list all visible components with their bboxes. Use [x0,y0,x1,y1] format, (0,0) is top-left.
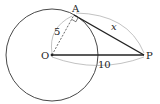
tangent-diagram: A O P 5 x 10 [0,0,160,104]
label-P: P [146,50,153,61]
label-A: A [71,3,80,14]
label-OA-length: 5 [54,26,60,37]
label-O: O [41,50,49,61]
label-OP-length: 10 [98,59,111,70]
point-O [51,54,54,57]
tangent-AP [74,15,144,55]
label-AP-length: x [111,21,117,32]
brace-AP [76,13,144,53]
